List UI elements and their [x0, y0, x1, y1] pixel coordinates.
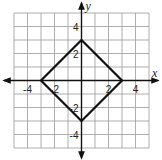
- y-axis-label: y: [85, 0, 92, 13]
- x-tick-label: -4: [23, 84, 32, 95]
- x-tick-label: 4: [133, 84, 139, 95]
- y-tick-label: -4: [70, 130, 79, 141]
- x-tick-label: -2: [50, 84, 59, 95]
- coordinate-plane: -4-22442-2-4 x y: [0, 0, 162, 160]
- y-tick-label: 4: [73, 22, 79, 33]
- x-tick-label: 2: [106, 84, 112, 95]
- y-tick-label: -2: [70, 103, 79, 114]
- x-axis-label: x: [151, 66, 158, 80]
- y-tick-label: 2: [73, 49, 79, 60]
